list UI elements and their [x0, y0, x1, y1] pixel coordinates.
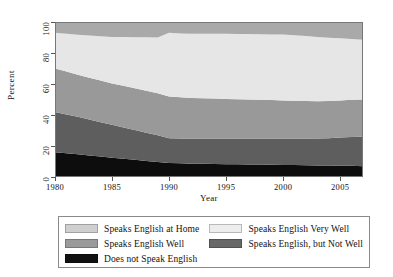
legend-label: Speaks English, but Not Well [248, 239, 363, 249]
legend-color-swatch [209, 224, 242, 233]
chart-legend: Speaks English at HomeSpeaks English Ver… [58, 216, 370, 268]
y-tick-label: 80 [41, 53, 51, 62]
legend-label: Speaks English at Home [104, 224, 199, 234]
y-axis-title: Percent [6, 70, 16, 100]
x-tick-label: 1980 [46, 182, 64, 192]
legend-entry[interactable]: Speaks English, but Not Well [209, 236, 363, 251]
x-tick-mark [226, 177, 227, 181]
x-tick-mark [55, 177, 56, 181]
x-tick-label: 1995 [217, 182, 235, 192]
x-tick-mark [340, 177, 341, 181]
x-tick-label: 1985 [103, 182, 121, 192]
plot-area [55, 22, 363, 177]
legend-grid: Speaks English at HomeSpeaks English Ver… [59, 217, 369, 267]
y-tick-label: 100 [41, 22, 51, 36]
legend-color-swatch [209, 239, 242, 248]
y-tick-label: 40 [41, 115, 51, 124]
x-tick-mark [169, 177, 170, 181]
legend-entry[interactable]: Speaks English at Home [65, 221, 205, 236]
y-tick-label: 0 [41, 177, 51, 182]
x-axis: Year 198019851990199520002005 [55, 177, 363, 203]
x-tick-label: 2000 [274, 182, 292, 192]
legend-color-swatch [65, 224, 98, 233]
y-tick-label: 60 [41, 84, 51, 93]
y-tick-label: 20 [41, 146, 51, 155]
legend-entry[interactable]: Speaks English Very Well [209, 221, 363, 236]
legend-entry[interactable]: Does not Speak English [65, 251, 205, 266]
legend-label: Does not Speak English [104, 254, 197, 264]
legend-label: Speaks English Well [104, 239, 184, 249]
plot-frame [55, 22, 363, 177]
legend-label: Speaks English Very Well [248, 224, 349, 234]
y-axis: Percent 020406080100 [0, 0, 55, 177]
x-tick-label: 1990 [160, 182, 178, 192]
x-tick-mark [283, 177, 284, 181]
x-tick-mark [112, 177, 113, 181]
x-tick-label: 2005 [331, 182, 349, 192]
legend-entry[interactable]: Speaks English Well [65, 236, 205, 251]
chart-figure: Percent 020406080100 Year 19801985199019… [0, 0, 393, 277]
x-axis-title: Year [55, 193, 363, 203]
legend-color-swatch [65, 254, 98, 263]
legend-color-swatch [65, 239, 98, 248]
